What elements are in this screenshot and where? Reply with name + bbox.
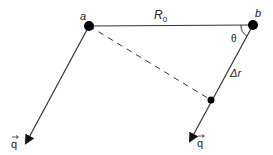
point-b-dot	[248, 20, 258, 30]
dashed-segment	[89, 26, 211, 100]
label-r0: R0	[154, 8, 168, 24]
angle-arc	[241, 25, 247, 36]
label-theta: θ	[231, 33, 237, 44]
svg-text:q: q	[11, 138, 17, 150]
vector-q-left	[26, 26, 89, 143]
label-b: b	[255, 7, 261, 19]
vector-q-right	[190, 25, 253, 141]
vector-diagram: a b R0 θ Δr q q	[0, 0, 273, 155]
point-a-dot	[84, 21, 94, 31]
svg-text:q: q	[197, 137, 203, 149]
label-a: a	[80, 10, 86, 22]
label-delta-r: Δr	[229, 67, 242, 79]
label-q-right: q	[197, 135, 205, 150]
label-q-left: q	[11, 136, 19, 151]
segment-r0	[89, 25, 253, 26]
point-mid-dot	[208, 97, 215, 104]
